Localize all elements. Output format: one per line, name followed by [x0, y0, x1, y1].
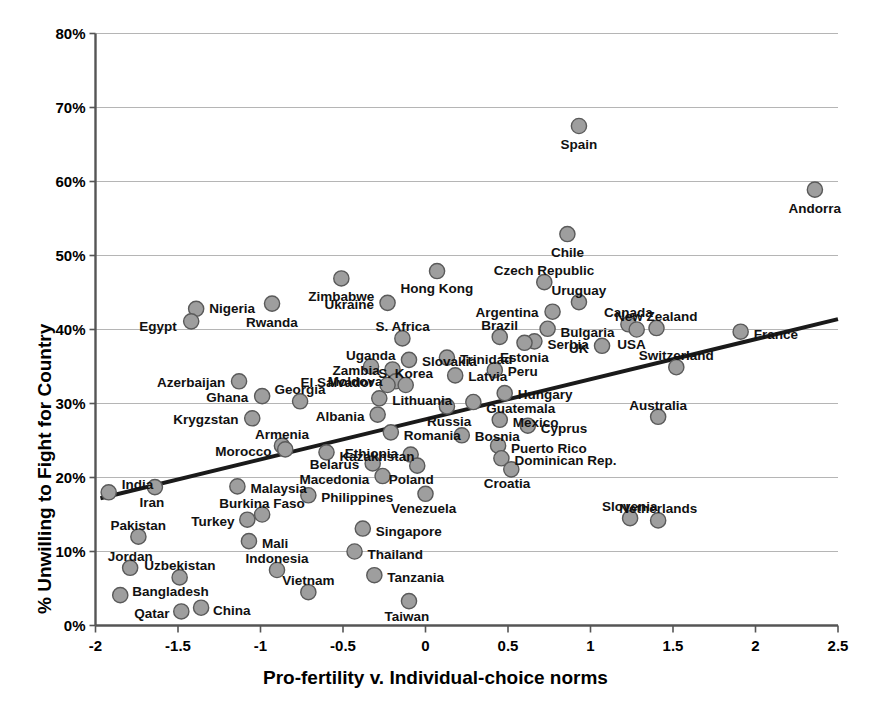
point-label: Taiwan	[385, 610, 430, 624]
tick-marks	[90, 34, 839, 633]
point-label: Venezuela	[391, 502, 456, 516]
point-label: India	[122, 478, 154, 492]
point-label: Uruguay	[551, 284, 606, 298]
x-tick-label: 1	[561, 637, 621, 654]
point-label: Ukraine	[325, 298, 375, 312]
point-label: Indonesia	[246, 552, 309, 566]
point-label: Bangladesh	[132, 585, 209, 599]
point-label: New Zealand	[615, 310, 698, 324]
point-label: Iran	[139, 496, 164, 510]
point-label: S. Korea	[378, 367, 433, 381]
point-label: Macedonia	[300, 473, 370, 487]
point-label: Peru	[508, 365, 538, 379]
x-tick-label: 0	[396, 637, 456, 654]
x-tick-label: -1	[231, 637, 291, 654]
point-label: Croatia	[484, 477, 531, 491]
point-label: Chile	[551, 246, 584, 260]
point-label: Hong Kong	[401, 282, 474, 296]
point-label: Latvia	[468, 370, 507, 384]
point-label: Tanzania	[387, 571, 444, 585]
point-label: Georgia	[275, 383, 326, 397]
point-label: Spain	[560, 138, 597, 152]
point-label: Switzerland	[639, 349, 714, 363]
point-label: Belarus	[310, 458, 360, 472]
point-label: Mali	[262, 537, 288, 551]
point-label: Rwanda	[246, 316, 298, 330]
point-label: Dominican Rep.	[514, 454, 616, 468]
point-label: Romania	[404, 429, 461, 443]
point-label: Vietnam	[282, 574, 334, 588]
point-label: Malaysia	[250, 482, 306, 496]
point-label: China	[213, 604, 251, 618]
point-label: Australia	[629, 399, 687, 413]
point-label: Guatemala	[486, 402, 555, 416]
x-tick-label: 2	[726, 637, 786, 654]
point-label: Cyprus	[541, 422, 588, 436]
x-tick-label: -0.5	[313, 637, 373, 654]
point-label: Trinidad	[460, 353, 513, 367]
point-label: Nigeria	[209, 302, 255, 316]
point-label: UK	[569, 342, 589, 356]
point-label: Czech Republic	[494, 264, 595, 278]
point-label: Burkina Faso	[219, 497, 305, 511]
point-label: S. Africa	[375, 320, 429, 334]
y-axis-title: % Unwilling to Fight for Country	[34, 14, 56, 614]
x-tick-label: -2	[66, 637, 126, 654]
point-label: Russia	[427, 415, 471, 429]
point-label: Azerbaijan	[157, 376, 225, 390]
point-label: Netherlands	[619, 502, 697, 516]
point-label: Brazil	[481, 319, 518, 333]
point-label: Krygzstan	[173, 413, 238, 427]
point-label: Albania	[316, 410, 365, 424]
x-axis-title: Pro-fertility v. Individual-choice norms	[0, 667, 871, 689]
point-label: Andorra	[788, 202, 841, 216]
point-label: Poland	[389, 473, 434, 487]
x-tick-label: 0.5	[478, 637, 538, 654]
x-tick-label: -1.5	[148, 637, 208, 654]
scatter-chart: 0%10%20%30%40%50%60%70%80%-2-1.5-1-0.500…	[0, 0, 871, 713]
point-label: Ghana	[206, 391, 248, 405]
point-label: Armenia	[255, 428, 309, 442]
point-label: Lithuania	[392, 394, 452, 408]
point-label: Egypt	[139, 320, 177, 334]
point-label: Morocco	[215, 445, 271, 459]
point-label: Uganda	[346, 349, 396, 363]
point-label: Qatar	[134, 607, 169, 621]
point-label: Turkey	[191, 515, 234, 529]
y-tick-label: 0%	[26, 617, 86, 634]
point-label: Pakistan	[110, 519, 166, 533]
point-label: Singapore	[376, 525, 442, 539]
point-label: Hungary	[518, 388, 573, 402]
x-tick-label: 2.5	[808, 637, 868, 654]
point-label: Uzbekistan	[144, 559, 215, 573]
point-label: France	[754, 328, 798, 342]
point-label: Philippines	[321, 491, 393, 505]
x-tick-label: 1.5	[643, 637, 703, 654]
point-label: Thailand	[368, 548, 424, 562]
